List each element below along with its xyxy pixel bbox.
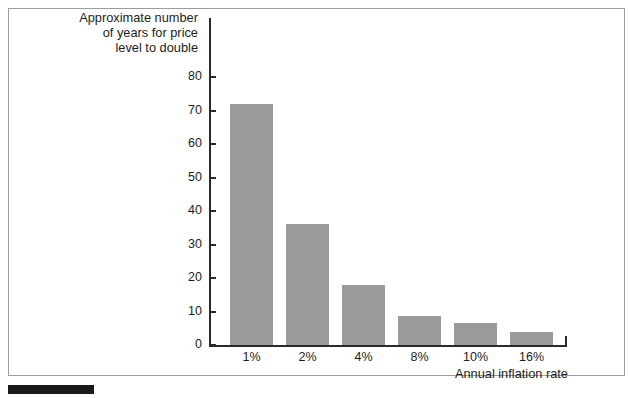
bar bbox=[342, 285, 385, 345]
figure-root: Approximate number of years for price le… bbox=[0, 0, 635, 398]
bar bbox=[286, 224, 329, 345]
bar bbox=[398, 316, 441, 345]
bar bbox=[510, 332, 553, 345]
x-axis-tick-label: 4% bbox=[332, 350, 395, 364]
y-axis-tick-label: 60 bbox=[160, 137, 202, 149]
y-axis-title: Approximate number of years for price le… bbox=[40, 10, 198, 55]
x-axis-tick-label: 10% bbox=[444, 350, 507, 364]
y-axis-tick bbox=[209, 110, 216, 112]
y-axis-tick-label: 70 bbox=[160, 104, 202, 116]
x-axis-tick-label: 1% bbox=[220, 350, 283, 364]
y-axis-tick-label: 80 bbox=[160, 70, 202, 82]
y-axis-tick bbox=[209, 277, 216, 279]
x-axis-end-tick bbox=[565, 336, 567, 347]
y-axis-line bbox=[209, 18, 211, 347]
y-axis-tick-label: 20 bbox=[160, 271, 202, 283]
x-axis-title: Annual inflation rate bbox=[380, 366, 568, 381]
x-axis-line bbox=[209, 345, 567, 347]
y-axis-tick-label: 0 bbox=[160, 338, 202, 350]
y-axis-tick bbox=[209, 177, 216, 179]
bar bbox=[454, 323, 497, 345]
y-axis-tick-label: 30 bbox=[160, 238, 202, 250]
x-axis-tick-label: 16% bbox=[500, 350, 563, 364]
y-axis-tick-label: 10 bbox=[160, 305, 202, 317]
y-axis-tick bbox=[209, 311, 216, 313]
y-axis-tick bbox=[209, 344, 216, 346]
x-axis-tick-label: 2% bbox=[276, 350, 339, 364]
bar bbox=[230, 104, 273, 345]
y-axis-tick-label: 40 bbox=[160, 204, 202, 216]
y-axis-tick bbox=[209, 244, 216, 246]
bar-chart-plot-area: Approximate number of years for price le… bbox=[0, 0, 635, 398]
x-axis-tick-label: 8% bbox=[388, 350, 451, 364]
y-axis-tick bbox=[209, 76, 216, 78]
y-axis-tick-label: 50 bbox=[160, 171, 202, 183]
y-axis-tick bbox=[209, 143, 216, 145]
y-axis-tick bbox=[209, 210, 216, 212]
